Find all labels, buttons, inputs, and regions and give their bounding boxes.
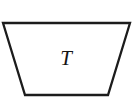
trapezoid-label-t: T [60,46,73,70]
trapezoid-diagram: T [0,0,132,108]
figure-canvas: T [0,0,132,108]
